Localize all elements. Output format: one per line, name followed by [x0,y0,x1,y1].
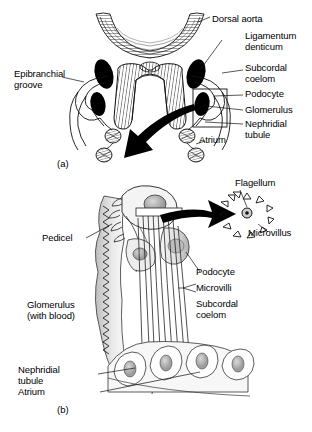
label-epibranchial-groove: Epibranchial groove [14,69,65,90]
label-podocyte-a: Podocyte [245,89,284,100]
label-ligamentum-denticum: Ligamentum denticum [245,31,296,52]
flagellum-icon [242,208,252,218]
notochord-crescent-icon [96,13,204,58]
glomerulus-with-blood [95,196,126,366]
pharyngeal-bar-structure [114,64,186,129]
label-flagellum: Flagellum [235,178,275,189]
label-nephridial-tubule-b: Nephridial tubule [18,365,60,386]
label-dorsal-aorta: Dorsal aorta [212,14,263,25]
label-atrium-a: Atrium [199,135,226,146]
label-glomerulus-b: Glomerulus (with blood) [27,300,75,321]
label-microvillus: Microvillus [248,228,291,239]
panel-a-id: (a) [57,158,69,169]
figure-root: Dorsal aorta Ligamentum denticum Subcord… [0,0,312,432]
label-subcordal-coelom-b: Subcordal coelom [196,299,238,320]
label-nephridial-tubule-a: Nephridial tubule [245,119,287,140]
label-subcordal-coelom-a: Subcordal coelom [245,63,287,84]
panel-b-id: (b) [57,404,69,415]
label-podocyte-b: Podocyte [196,267,235,278]
ligamentum-denticum-left [89,57,117,117]
label-glomerulus-a: Glomerulus [245,105,293,116]
podocyte-secondary-cell [126,239,155,271]
label-microvilli: Microvilli [196,283,231,294]
label-pedicel: Pedicel [42,233,72,244]
label-atrium-b: Atrium [18,387,45,398]
panel-b-drawing [86,186,274,396]
glomerulus-tufts-left [96,129,121,162]
